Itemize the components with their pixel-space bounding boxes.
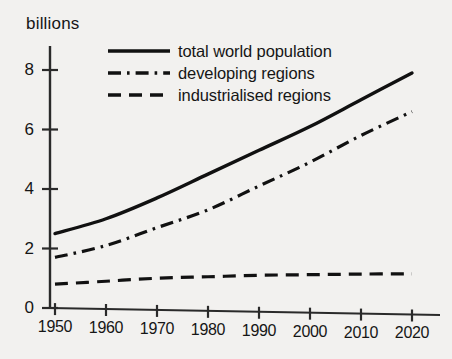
y-tick-label: 6	[12, 120, 34, 140]
x-tick-label: 2010	[335, 324, 387, 342]
x-tick-label: 2000	[284, 323, 336, 341]
x-axis-line	[50, 308, 440, 315]
x-tick-label: 1970	[131, 320, 183, 338]
series-line-1	[55, 112, 412, 258]
y-tick-label: 4	[12, 179, 34, 199]
y-tick-label: 0	[12, 298, 34, 318]
legend-label-1: developing regions	[178, 64, 315, 83]
x-tick-label: 1950	[29, 318, 81, 336]
legend-label-0: total world population	[178, 42, 332, 61]
x-tick-label: 1990	[233, 322, 285, 340]
y-tick-label: 2	[12, 239, 34, 259]
population-line-chart: billions 02468 1950196019701980199020002…	[0, 0, 452, 359]
chart-series-lines	[55, 73, 412, 284]
y-tick-label: 8	[12, 60, 34, 80]
legend-label-2: industrialised regions	[178, 86, 331, 105]
x-tick-label: 1980	[182, 321, 234, 339]
x-tick-label: 1960	[80, 319, 132, 337]
series-line-2	[55, 274, 412, 284]
x-tick-label: 2020	[386, 324, 438, 342]
legend-line-samples	[108, 51, 170, 95]
